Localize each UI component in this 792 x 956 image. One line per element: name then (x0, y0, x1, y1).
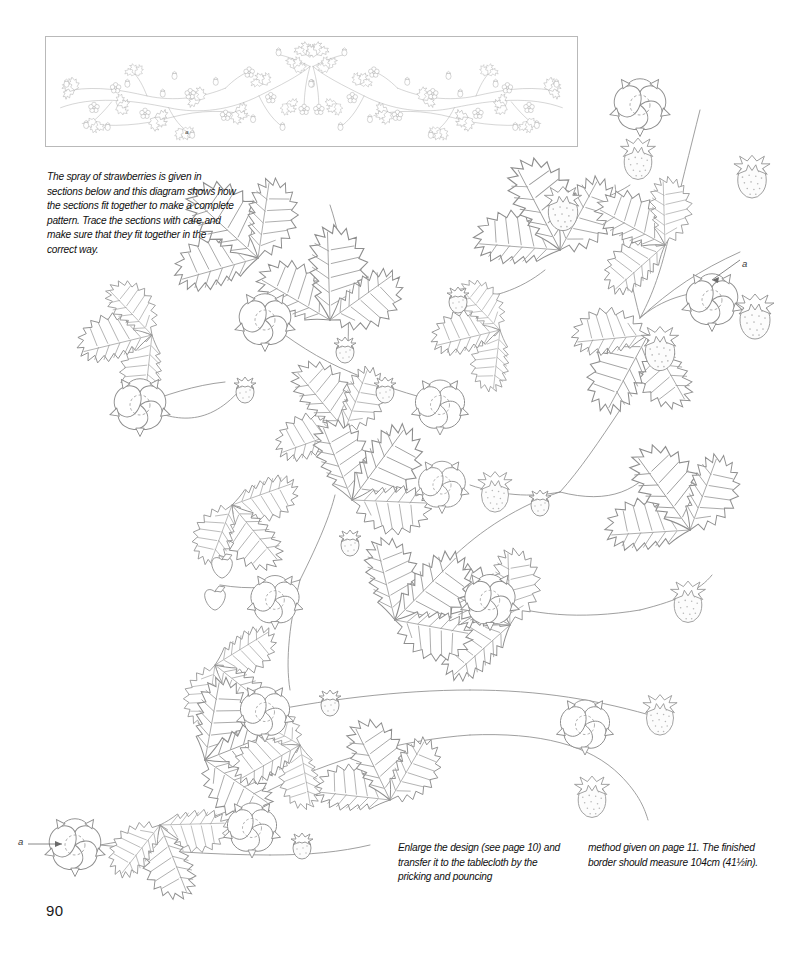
berry-group (205, 138, 774, 859)
bottom-caption-left-column: Enlarge the design (see page 10) and tra… (398, 840, 569, 884)
page-number: 90 (46, 902, 64, 919)
marker-a-left-leader (24, 832, 74, 862)
complete-border-diagram-box: a (45, 36, 578, 147)
section-marker-a-right: a (742, 258, 747, 269)
section-marker-a-left: a (18, 836, 23, 847)
intro-caption: The spray of strawberries is given in se… (47, 169, 236, 257)
border-layout-mini-diagram: a (46, 37, 577, 146)
pattern-page: a The spray of strawberries is given in … (0, 0, 792, 956)
marker-a-right-leader (690, 250, 750, 300)
bottom-caption-right-column: method given on page 11. The finished bo… (588, 840, 759, 869)
